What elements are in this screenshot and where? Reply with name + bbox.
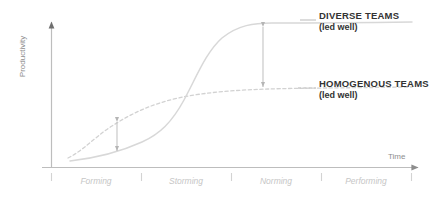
legend-sublabel-diverse-teams: (led well) bbox=[319, 23, 399, 32]
stage-label-performing: Performing bbox=[321, 176, 411, 186]
chart-container: Productivity Time DIVERSE TEAMS (led wel… bbox=[0, 0, 432, 199]
legend-item-diverse-teams: DIVERSE TEAMS (led well) bbox=[319, 11, 399, 32]
stage-label-storming: Storming bbox=[141, 176, 231, 186]
stage-label-norming: Norming bbox=[231, 176, 321, 186]
stage-label-forming: Forming bbox=[51, 176, 141, 186]
y-axis-title: Productivity bbox=[18, 17, 27, 97]
x-axis-title: Time bbox=[388, 152, 405, 161]
legend-label-homogenous-teams: HOMOGENOUS TEAMS bbox=[319, 79, 429, 89]
legend-sublabel-homogenous-teams: (led well) bbox=[319, 91, 429, 100]
legend-label-diverse-teams: DIVERSE TEAMS bbox=[319, 11, 399, 21]
legend-item-homogenous-teams: HOMOGENOUS TEAMS (led well) bbox=[319, 79, 429, 100]
